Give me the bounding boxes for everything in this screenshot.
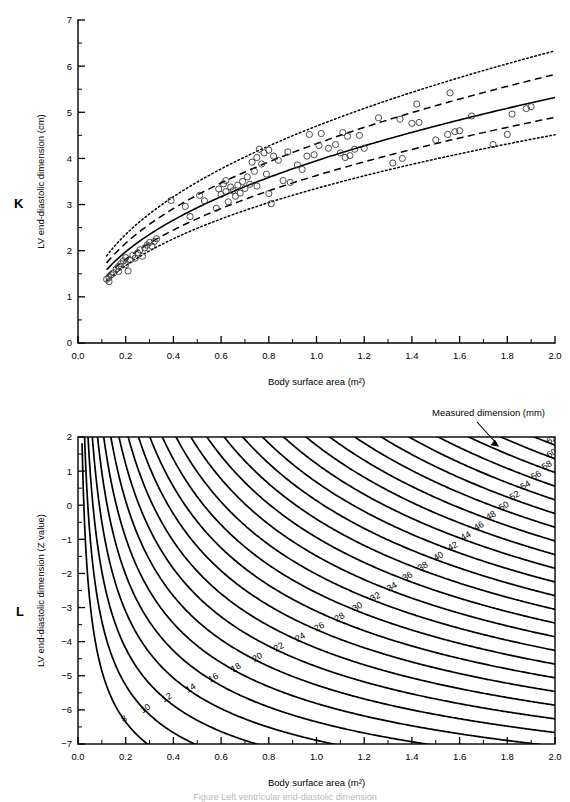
- reference-curve-solid: [107, 97, 555, 269]
- contour-label-48: 48: [484, 509, 498, 523]
- x-tick-label: 1.8: [501, 350, 514, 361]
- panel-k: K 012345670.00.20.40.60.81.01.21.41.61.8…: [0, 0, 570, 400]
- y-tick-label: 1: [67, 466, 72, 477]
- y-tick-label: 0: [67, 500, 72, 511]
- contour-label-22: 22: [272, 640, 286, 654]
- y-tick-label: 1: [67, 291, 72, 302]
- x-tick-label: 0.0: [71, 751, 84, 762]
- data-point: [299, 166, 305, 172]
- contour-label-58: 58: [540, 458, 554, 472]
- x-tick-label: 0.2: [119, 751, 132, 762]
- x-tick-label: 0.8: [262, 751, 275, 762]
- data-point: [509, 111, 515, 117]
- contour-group: [82, 400, 555, 785]
- contour-line: [212, 400, 555, 596]
- x-tick-label: 1.6: [453, 751, 466, 762]
- contour-label-60: 60: [545, 446, 559, 460]
- data-point: [244, 174, 250, 180]
- x-tick-label: 1.2: [358, 350, 371, 361]
- data-point: [414, 101, 420, 107]
- y-tick-label: −3: [61, 602, 72, 613]
- x-tick-label: 2.0: [548, 350, 561, 361]
- contour-label-38: 38: [416, 559, 430, 573]
- data-point: [187, 213, 193, 219]
- x-tick-label: 1.8: [501, 751, 514, 762]
- data-point: [399, 155, 405, 161]
- data-point: [356, 132, 362, 138]
- contour-label-50: 50: [497, 499, 511, 513]
- contour-label-42: 42: [446, 539, 460, 553]
- panel-l-plot: 210−1−2−3−4−5−6−70.00.20.40.60.81.01.21.…: [0, 400, 570, 802]
- contour-label-34: 34: [385, 580, 399, 594]
- y-tick-label: −1: [61, 534, 72, 545]
- panel-l-ylabel: LV end-diastolic dimension (Z value): [35, 514, 46, 667]
- panel-l: L 210−1−2−3−4−5−6−70.00.20.40.60.81.01.2…: [0, 400, 570, 802]
- data-point: [311, 152, 317, 158]
- contour-line: [245, 400, 555, 568]
- contour-label-32: 32: [368, 590, 382, 604]
- measured-dimension-annotation: Measured dimension (mm): [432, 407, 545, 418]
- contour-label-24: 24: [293, 630, 307, 644]
- x-tick-label: 0.4: [167, 350, 180, 361]
- contour-label-30: 30: [350, 600, 364, 614]
- y-tick-label: 0: [67, 337, 72, 348]
- contour-label-52: 52: [508, 489, 522, 503]
- x-tick-label: 0.6: [214, 751, 227, 762]
- data-point: [237, 190, 243, 196]
- y-tick-label: 7: [67, 14, 72, 25]
- y-tick-label: 5: [67, 107, 72, 118]
- panel-l-letter: L: [16, 604, 24, 619]
- data-point: [409, 120, 415, 126]
- x-tick-label: 1.2: [358, 751, 371, 762]
- contour-line: [112, 400, 555, 719]
- x-tick-label: 1.6: [453, 350, 466, 361]
- data-point: [254, 183, 260, 189]
- contour-label-54: 54: [518, 478, 532, 492]
- data-point: [254, 154, 260, 160]
- y-tick-label: −6: [61, 704, 72, 715]
- data-point: [304, 153, 310, 159]
- x-tick-label: 0.4: [167, 751, 180, 762]
- panel-l-xlabel: Body surface area (m²): [268, 777, 365, 788]
- panel-k-xlabel: Body surface area (m²): [268, 376, 365, 387]
- data-point: [263, 171, 269, 177]
- y-tick-label: 3: [67, 199, 72, 210]
- figure-caption: Figure Left ventricular end-diastolic di…: [0, 792, 570, 802]
- y-tick-label: −5: [61, 670, 72, 681]
- panel-k-axes: [78, 20, 555, 343]
- scatter-points: [104, 90, 535, 285]
- figure-container: K 012345670.00.20.40.60.81.01.21.41.61.8…: [0, 0, 570, 802]
- data-point: [390, 160, 396, 166]
- data-point: [433, 137, 439, 143]
- panel-k-ylabel: LV end-diastolic dimension (cm): [35, 114, 46, 248]
- contour-label-12: 12: [160, 690, 174, 704]
- contour-label-8: 8: [119, 713, 128, 724]
- x-tick-label: 0.6: [214, 350, 227, 361]
- contour-label-56: 56: [529, 468, 543, 482]
- contour-label-46: 46: [472, 519, 486, 533]
- contour-label-40: 40: [431, 549, 445, 563]
- contour-line: [170, 400, 555, 637]
- contour-line: [127, 400, 555, 691]
- data-point: [251, 168, 257, 174]
- x-tick-label: 0.8: [262, 350, 275, 361]
- data-point: [332, 141, 338, 147]
- data-point: [445, 131, 451, 137]
- data-point: [201, 198, 207, 204]
- data-point: [504, 131, 510, 137]
- data-point: [325, 145, 331, 151]
- contour-label-16: 16: [206, 671, 220, 685]
- contour-label-62: 62: [545, 433, 559, 447]
- reference-curve-dashed: [107, 74, 555, 262]
- data-point: [280, 177, 286, 183]
- data-point: [447, 90, 453, 96]
- annotation-arrow-line: [477, 422, 497, 444]
- y-tick-label: 4: [67, 153, 72, 164]
- y-tick-label: −4: [61, 636, 72, 647]
- panel-k-letter: K: [14, 196, 23, 211]
- x-tick-label: 0.2: [119, 350, 132, 361]
- contour-label-44: 44: [459, 529, 473, 543]
- reference-curve-dotted: [107, 51, 555, 256]
- x-tick-label: 1.4: [405, 751, 418, 762]
- data-point: [375, 115, 381, 121]
